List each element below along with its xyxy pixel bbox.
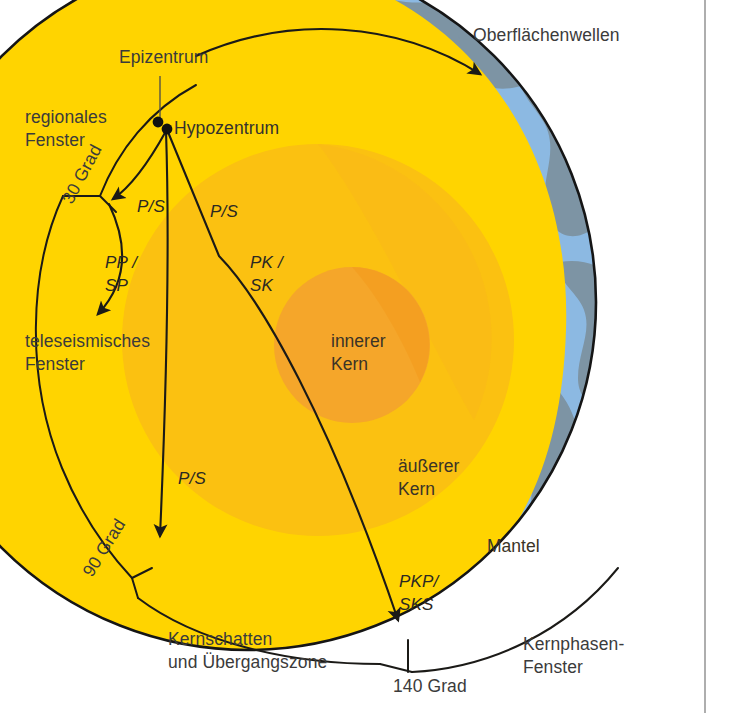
label-phase-pkp-sks-line2: SKS [399, 595, 434, 614]
label-phase-pk-sk-line2: SK [250, 276, 274, 295]
label-phase-pp-sp-line1: PP / [105, 253, 139, 272]
label-regionales-fenster-line2: Fenster [25, 130, 85, 150]
diagram-canvas: Epizentrum Hypozentrum Oberflächenwellen… [0, 0, 730, 713]
seismic-earth-diagram: Epizentrum Hypozentrum Oberflächenwellen… [0, 0, 730, 713]
label-phase-ps-deep: P/S [178, 469, 206, 488]
label-phase-ps-teleseismic: P/S [210, 202, 238, 221]
label-innerer-kern-line1: innerer [331, 331, 386, 351]
label-teleseismisches-fenster-line2: Fenster [25, 354, 85, 374]
label-mantel: Mantel [487, 536, 540, 556]
label-aeusserer-kern-line2: Kern [398, 479, 435, 499]
label-aeusserer-kern-line1: äußerer [398, 456, 459, 476]
label-140-grad: 140 Grad [393, 676, 467, 696]
label-phase-ps-regional: P/S [137, 197, 165, 216]
label-regionales-fenster-line1: regionales [25, 107, 107, 127]
label-epizentrum: Epizentrum [119, 47, 209, 67]
epicenter-dot [153, 117, 164, 128]
label-phase-pk-sk-line1: PK / [250, 253, 285, 272]
label-oberflaechenwellen: Oberflächenwellen [473, 25, 620, 45]
label-kernphasen-fenster-line2: Fenster [523, 657, 583, 677]
label-kernschatten-line2: und Übergangszone [168, 652, 327, 672]
label-kernphasen-fenster-line1: Kernphasen- [523, 634, 624, 654]
label-innerer-kern-line2: Kern [331, 354, 368, 374]
label-kernschatten-line1: Kernschatten [168, 629, 272, 649]
label-hypozentrum: Hypozentrum [174, 118, 279, 138]
label-phase-pp-sp-line2: SP [105, 276, 129, 295]
hypocenter-dot [162, 124, 173, 135]
label-phase-pkp-sks-line1: PKP/ [399, 572, 441, 591]
label-teleseismisches-fenster-line1: teleseismisches [25, 331, 150, 351]
